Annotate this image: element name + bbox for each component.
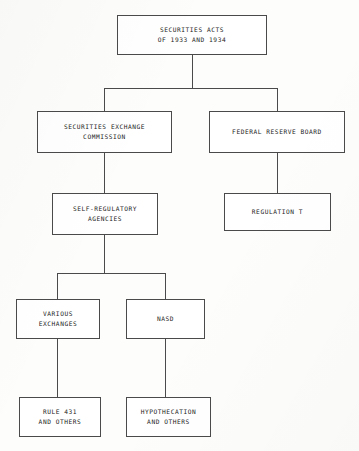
node-regulation-t[interactable]: REGULATION T (224, 193, 331, 231)
node-self-regulatory-agencies-line-1: SELF-REGULATORY (73, 204, 137, 214)
node-hypothecation-line-2: AND OTHERS (147, 417, 190, 427)
node-various-exchanges[interactable]: VARIOUS EXCHANGES (16, 299, 100, 339)
node-rule-431-line-2: AND OTHERS (39, 417, 82, 427)
node-securities-acts[interactable]: SECURITIES ACTS OF 1933 AND 1934 (117, 15, 267, 55)
node-hypothecation-line-1: HYPOTHECATION (141, 407, 197, 417)
node-self-regulatory-agencies-line-2: AGENCIES (88, 214, 122, 224)
node-sec-line-2: COMMISSION (83, 132, 126, 142)
node-rule-431[interactable]: RULE 431 AND OTHERS (19, 397, 101, 437)
node-hypothecation[interactable]: HYPOTHECATION AND OTHERS (126, 397, 211, 437)
node-nasd[interactable]: NASD (126, 299, 205, 339)
node-rule-431-line-1: RULE 431 (43, 407, 77, 417)
node-self-regulatory-agencies[interactable]: SELF-REGULATORY AGENCIES (52, 193, 158, 235)
node-federal-reserve-board-line-1: FEDERAL RESERVE BOARD (232, 127, 322, 137)
node-federal-reserve-board[interactable]: FEDERAL RESERVE BOARD (209, 111, 345, 153)
node-sec[interactable]: SECURITIES EXCHANGE COMMISSION (37, 111, 172, 153)
node-securities-acts-line-2: OF 1933 AND 1934 (158, 35, 226, 45)
node-various-exchanges-line-1: VARIOUS (43, 309, 73, 319)
node-sec-line-1: SECURITIES EXCHANGE (64, 122, 145, 132)
node-regulation-t-line-1: REGULATION T (252, 207, 303, 217)
node-securities-acts-line-1: SECURITIES ACTS (160, 25, 224, 35)
node-nasd-line-1: NASD (157, 314, 174, 324)
node-various-exchanges-line-2: EXCHANGES (39, 319, 77, 329)
org-chart-canvas: SECURITIES ACTS OF 1933 AND 1934 SECURIT… (0, 0, 359, 451)
